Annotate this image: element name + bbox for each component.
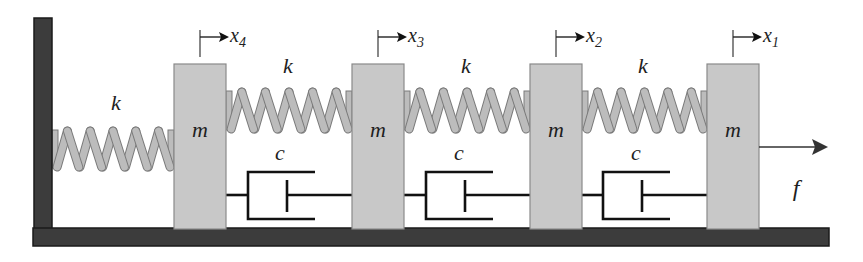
dampers-group: ccc — [226, 140, 707, 219]
displacement-marker-m1: x1 — [733, 24, 779, 57]
displacement-label: x2 — [585, 24, 602, 50]
damper-c-m3-m2: c — [404, 140, 530, 219]
mass-label: m — [548, 117, 564, 142]
damper-c-m2-m1: c — [582, 140, 707, 219]
spring-k-m2-m1: k — [582, 53, 707, 130]
mass-label: m — [192, 117, 208, 142]
damper-c-m4-m3: c — [226, 140, 352, 219]
displacement-marker-m3: x3 — [378, 24, 424, 57]
damper-coefficient-label: c — [454, 140, 464, 165]
mass-label: m — [725, 117, 741, 142]
mass-block-m3: m — [352, 64, 404, 229]
displacement-label: x4 — [229, 24, 246, 50]
spring-stiffness-label: k — [111, 90, 122, 115]
displacement-label: x1 — [762, 24, 779, 50]
damper-coefficient-label: c — [275, 140, 285, 165]
spring-k-m4-m3: k — [226, 53, 352, 130]
mass-spring-damper-diagram: kkkk ccc mmmm x4x3x2x1 f — [0, 0, 863, 262]
spring-stiffness-label: k — [461, 53, 472, 78]
spring-k-m3-m2: k — [404, 53, 530, 130]
mass-block-m2: m — [530, 64, 582, 229]
fixed-wall — [34, 18, 52, 230]
spring-stiffness-label: k — [638, 53, 649, 78]
force-group: f — [759, 147, 826, 201]
spring-stiffness-label: k — [283, 53, 294, 78]
displacement-marker-m2: x2 — [556, 24, 602, 57]
displacement-label: x3 — [407, 24, 424, 50]
mass-block-m4: m — [174, 64, 226, 229]
ground-base — [33, 228, 829, 246]
damper-coefficient-label: c — [631, 140, 641, 165]
mass-block-m1: m — [707, 64, 759, 229]
displacement-marker-m4: x4 — [200, 24, 246, 57]
force-label: f — [793, 175, 803, 201]
spring-k-wall-m4: k — [52, 90, 174, 168]
mass-label: m — [370, 117, 386, 142]
